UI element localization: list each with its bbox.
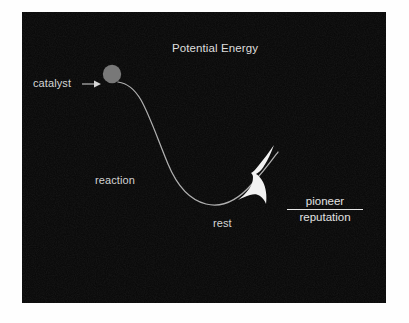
energy-curve-graphic: [22, 12, 386, 303]
fraction-denominator: reputation: [287, 211, 363, 224]
dark-panel: Potential Energy catalyst reaction rest …: [22, 12, 386, 303]
page-title: Potential Energy: [172, 43, 258, 55]
catalyst-ball-icon: [103, 65, 121, 83]
reaction-label: reaction: [95, 175, 135, 186]
rest-label: rest: [213, 218, 232, 229]
fraction-divider: [287, 209, 363, 210]
pioneer-reputation-fraction: pioneer reputation: [287, 195, 363, 224]
brush-brace-icon: [238, 145, 274, 204]
figure-canvas: Potential Energy catalyst reaction rest …: [0, 0, 409, 323]
arrow-right-icon: [82, 79, 102, 89]
catalyst-label: catalyst: [33, 78, 71, 89]
fraction-numerator: pioneer: [287, 195, 363, 208]
